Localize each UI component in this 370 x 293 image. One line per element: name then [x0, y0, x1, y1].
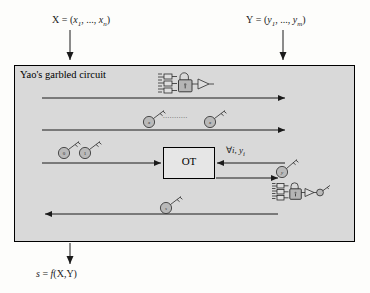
forall-comma: , — [235, 145, 237, 155]
input-y-close: ) — [302, 14, 305, 25]
input-label-x: X = (x1, ..., xn) — [52, 14, 110, 28]
input-x-name: X — [52, 14, 59, 25]
input-y-name: Y — [246, 14, 253, 25]
input-x-ellipsis: , ..., — [81, 14, 99, 25]
output-equals: = — [42, 268, 48, 279]
forall-var-sub: i — [243, 150, 245, 158]
output-args: (X,Y) — [53, 268, 77, 279]
input-x-close: ) — [107, 14, 110, 25]
ot-query-label: ∀i, yi — [226, 145, 245, 158]
output-name: s — [36, 268, 40, 279]
yao-garbled-circuit-figure: X = (x1, ..., xn) Y = (y1, ..., ym) Yao'… — [0, 0, 370, 293]
ot-label: OT — [163, 155, 215, 167]
input-y-ellipsis: , ..., — [275, 14, 293, 25]
input-x-equals: = — [62, 14, 68, 25]
input-y-equals: = — [256, 14, 262, 25]
output-label: s = f(X,Y) — [36, 268, 77, 279]
key-ellipsis: ........... — [163, 112, 188, 120]
panel-title: Yao's garbled circuit — [20, 69, 106, 80]
input-label-y: Y = (y1, ..., ym) — [246, 14, 306, 28]
